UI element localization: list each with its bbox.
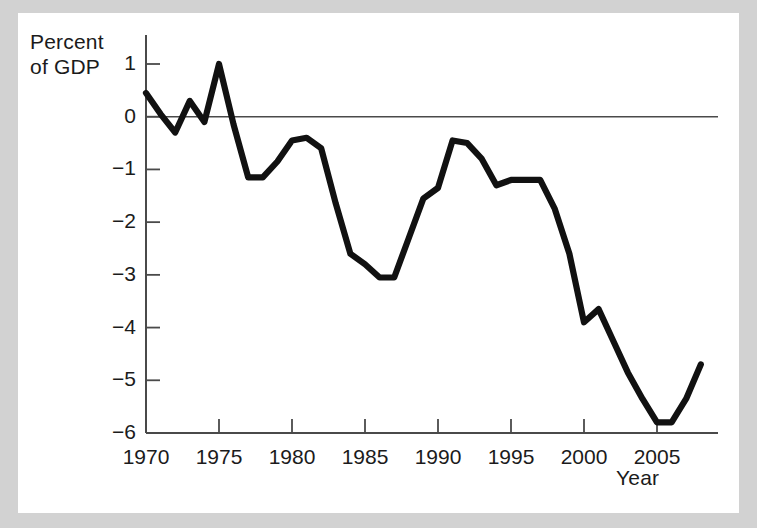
y-tick-label-7: −6	[96, 420, 136, 444]
y-axis-title: Percentof GDP	[30, 29, 104, 79]
y-tick-label-1: 0	[96, 104, 136, 128]
x-tick-label-4: 1990	[403, 445, 473, 469]
y-tick-label-6: −5	[96, 367, 136, 391]
y-tick-label-3: −2	[96, 209, 136, 233]
figure-frame: Percentof GDP Year 10−1−2−3−4−5−6 197019…	[18, 13, 739, 513]
x-tick-label-7: 2005	[622, 445, 692, 469]
x-tick-label-2: 1980	[257, 445, 327, 469]
x-tick-label-0: 1970	[111, 445, 181, 469]
y-tick-label-0: 1	[96, 51, 136, 75]
x-tick-label-3: 1985	[330, 445, 400, 469]
line-chart: Percentof GDP Year 10−1−2−3−4−5−6 197019…	[18, 13, 739, 513]
y-axis-title-line2: of GDP	[30, 55, 100, 78]
axis-ticks	[146, 64, 657, 433]
x-tick-label-6: 2000	[549, 445, 619, 469]
y-tick-label-5: −4	[96, 315, 136, 339]
data-series-line	[146, 64, 701, 422]
x-tick-label-5: 1995	[476, 445, 546, 469]
y-tick-label-4: −3	[96, 262, 136, 286]
axis-lines	[146, 35, 718, 433]
x-tick-label-1: 1975	[184, 445, 254, 469]
y-tick-label-2: −1	[96, 156, 136, 180]
y-axis-title-line1: Percent	[30, 30, 104, 53]
